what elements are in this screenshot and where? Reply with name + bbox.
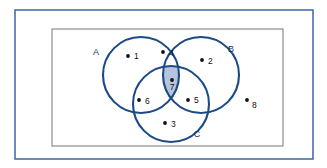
element-dot-6 xyxy=(137,98,141,102)
element-label-8: 8 xyxy=(252,100,257,110)
element-label-1: 1 xyxy=(134,51,139,61)
venn-diagram-canvas: A B C 1 2 3 4 5 6 7 8 xyxy=(0,0,327,168)
set-label-b: B xyxy=(228,44,234,54)
element-dot-5 xyxy=(186,98,190,102)
set-label-a: A xyxy=(93,47,99,57)
element-label-6: 6 xyxy=(145,96,150,106)
element-dot-3 xyxy=(163,121,167,125)
element-label-4: 4 xyxy=(169,48,174,58)
element-label-7: 7 xyxy=(170,82,175,92)
element-label-3: 3 xyxy=(171,119,176,129)
element-label-5: 5 xyxy=(194,95,199,105)
set-label-c: C xyxy=(194,129,201,139)
element-dot-1 xyxy=(126,54,130,58)
venn-diagram-figure: A B C 1 2 3 4 5 6 7 8 xyxy=(0,0,327,168)
element-dot-4 xyxy=(161,50,165,54)
element-dot-8 xyxy=(245,98,249,102)
element-label-2: 2 xyxy=(208,56,213,66)
element-dot-2 xyxy=(200,58,204,62)
